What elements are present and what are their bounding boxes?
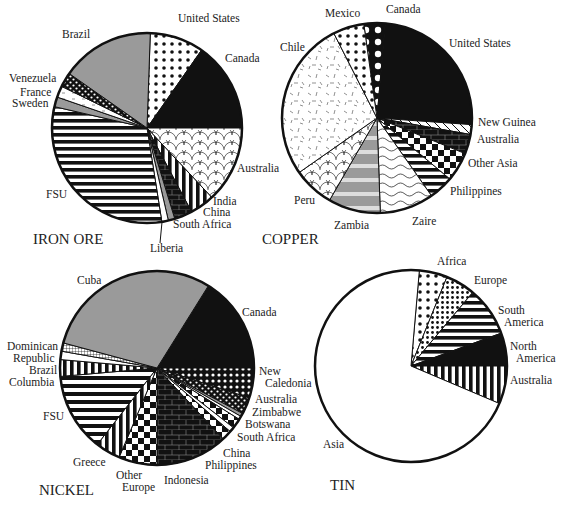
slice-label-africa: Africa <box>437 255 466 267</box>
slice-label-united-states: United States <box>178 12 240 24</box>
slice-label-canada: Canada <box>386 3 420 15</box>
slice-label-mexico: Mexico <box>325 7 360 19</box>
slice-label-south-africa: South Africa <box>237 431 295 443</box>
slice-label-greece: Greece <box>73 456 106 468</box>
slice-label-sweden: Sweden <box>12 97 49 109</box>
slice-label-peru: Peru <box>294 194 315 206</box>
slice-label-south-america: SouthAmerica <box>498 304 544 328</box>
chart-title-nickel: NICKEL <box>39 482 94 498</box>
slice-label-china: China <box>223 447 250 459</box>
slice-label-indonesia: Indonesia <box>164 474 209 486</box>
slice-label-columbia: Columbia <box>9 376 54 388</box>
slice-label-brazil: Brazil <box>62 28 90 40</box>
slice-label-liberia: Liberia <box>150 242 183 254</box>
slice-label-philippines: Philippines <box>205 459 257 472</box>
slice-label-fsu: FSU <box>46 188 68 200</box>
chart-title-iron-ore: IRON ORE <box>33 231 103 247</box>
pie-chart-panel: United StatesCanadaAustraliaIndiaChinaSo… <box>0 0 563 505</box>
pie-tin: AfricaEuropeSouthAmericaNorthAmericaAust… <box>315 255 556 493</box>
slice-label-france: France <box>20 86 51 98</box>
slice-label-new-guinea: New Guinea <box>478 116 536 128</box>
slice-label-cuba: Cuba <box>77 274 101 286</box>
slice-label-australia: Australia <box>477 133 519 145</box>
slice-label-dominican-republic: DominicanRepublic <box>7 340 58 365</box>
slice-label-zimbabwe: Zimbabwe <box>252 406 301 418</box>
pie-copper: CanadaUnited StatesNew GuineaAustraliaOt… <box>262 3 536 247</box>
slice-label-australia: Australia <box>510 374 552 386</box>
slice-label-philippines: Philippines <box>450 185 502 198</box>
slice-label-chile: Chile <box>280 41 305 53</box>
slice-label-zambia: Zambia <box>334 219 369 231</box>
slice-label-australia: Australia <box>255 393 297 405</box>
slice-label-brazil: Brazil <box>29 364 57 376</box>
slice-label-united-states: United States <box>449 37 511 49</box>
charts-canvas: United StatesCanadaAustraliaIndiaChinaSo… <box>0 0 563 505</box>
slice-label-europe: Europe <box>474 274 507 287</box>
chart-title-tin: TIN <box>330 477 355 493</box>
slice-label-north-america: NorthAmerica <box>510 340 556 364</box>
slice-label-botswana: Botswana <box>245 418 290 430</box>
slice-label-australia: Australia <box>237 162 279 174</box>
slice-label-china: China <box>203 206 230 218</box>
chart-title-copper: COPPER <box>262 231 319 247</box>
liberia-leader-line <box>160 222 162 243</box>
slice-label-canada: Canada <box>242 306 276 318</box>
slice-label-zaire: Zaire <box>412 215 436 227</box>
slice-label-other-europe: OtherEurope <box>116 469 155 494</box>
slice-label-fsu: FSU <box>43 410 65 422</box>
slice-label-asia: Asia <box>323 438 344 450</box>
pie-nickel: CanadaNewCaledoniaAustraliaZimbabweBotsw… <box>7 271 312 498</box>
pie-iron-ore: United StatesCanadaAustraliaIndiaChinaSo… <box>9 12 279 254</box>
slice-label-venezuela: Venezuela <box>9 72 56 84</box>
slice-label-canada: Canada <box>225 52 259 64</box>
slice-label-other-asia: Other Asia <box>468 157 518 169</box>
slice-label-new-caledonia: NewCaledonia <box>259 365 312 389</box>
slice-label-south-africa: South Africa <box>173 218 231 230</box>
